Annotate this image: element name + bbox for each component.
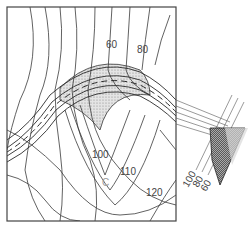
contour-label-110: 110 xyxy=(120,166,136,177)
contour-label-100: 100 xyxy=(92,149,109,160)
contour-label-60: 60 xyxy=(106,39,118,50)
contour-map-diagram: 60 80 100 110 120 C 100 80 60 xyxy=(0,0,251,228)
contour-label-120: 120 xyxy=(146,187,163,198)
cross-section-profile xyxy=(196,95,248,185)
point-label-c: C xyxy=(102,177,109,188)
contour-label-80: 80 xyxy=(137,44,149,55)
